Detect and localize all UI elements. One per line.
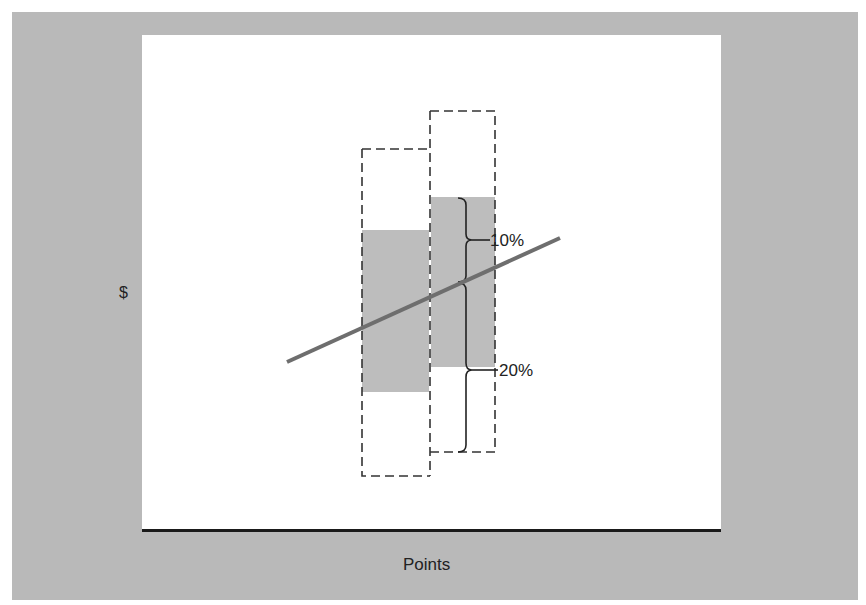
- upper-percent-label: 10%: [490, 231, 524, 250]
- lower-percent-label: 20%: [499, 361, 533, 380]
- range-diagram: 10% 20%: [0, 0, 866, 605]
